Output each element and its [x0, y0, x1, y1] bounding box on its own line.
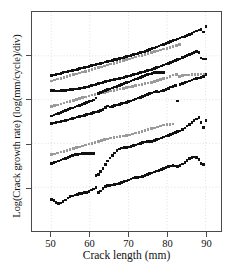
y-tick-mark — [26, 99, 31, 100]
x-tick-mark — [128, 232, 129, 237]
x-tick-mark — [89, 232, 90, 237]
data-point — [200, 121, 203, 124]
plot-area — [31, 11, 222, 232]
data-point — [99, 190, 102, 193]
x-tick-label: 70 — [115, 238, 141, 249]
data-point — [99, 170, 102, 173]
data-point — [102, 167, 105, 170]
data-point — [106, 160, 109, 163]
data-point — [202, 31, 205, 34]
figure: Log(Crack growth rate) (log(mm/cycle)/di… — [0, 0, 240, 270]
x-tick-mark — [167, 232, 168, 237]
data-point — [205, 25, 208, 28]
data-point — [92, 152, 95, 155]
data-point — [172, 123, 175, 126]
data-point — [198, 51, 201, 54]
data-point — [109, 157, 112, 160]
data-point — [95, 97, 98, 100]
data-point — [202, 126, 205, 129]
y-tick-mark — [26, 144, 31, 145]
data-point — [198, 158, 201, 161]
x-tick-mark — [206, 232, 207, 237]
data-point — [198, 116, 201, 119]
y-tick-mark — [26, 188, 31, 189]
x-axis-label: Crack length (mm) — [31, 249, 222, 261]
x-tick-label: 80 — [154, 238, 180, 249]
data-point — [205, 58, 208, 61]
data-point — [104, 163, 107, 166]
data-point — [205, 73, 208, 76]
x-tick-label: 90 — [193, 238, 219, 249]
data-point — [178, 43, 181, 46]
data-point — [111, 154, 114, 157]
data-point — [205, 119, 208, 122]
x-tick-label: 50 — [37, 238, 63, 249]
data-points-layer — [32, 12, 221, 231]
x-tick-label: 60 — [76, 238, 102, 249]
data-point — [97, 173, 100, 176]
y-axis-label: Log(Crack growth rate) (log(mm/cycle)/di… — [11, 11, 27, 241]
x-tick-mark — [50, 232, 51, 237]
data-point — [95, 186, 98, 189]
data-point — [174, 84, 177, 87]
data-point — [162, 71, 165, 74]
data-point — [176, 100, 179, 103]
y-tick-mark — [26, 55, 31, 56]
data-point — [202, 163, 205, 166]
